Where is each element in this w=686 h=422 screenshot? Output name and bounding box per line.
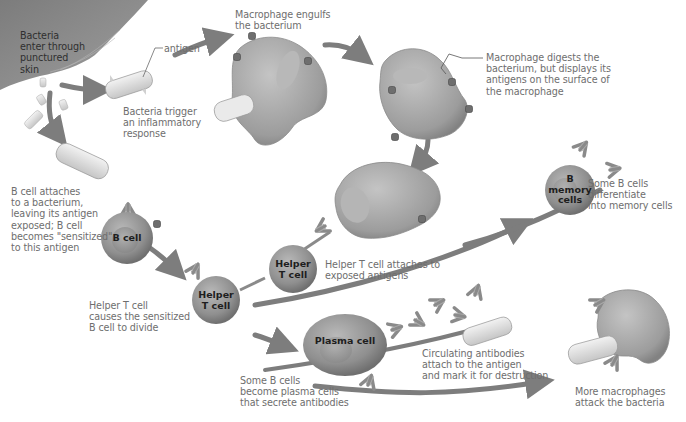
cell-label-b-memory: B memory cells	[545, 174, 595, 206]
macrophage-presenting	[335, 162, 440, 238]
macrophage-digesting	[380, 49, 473, 141]
label-bacteria-trigger: Bacteria trigger an inflammatory respons…	[123, 106, 201, 140]
label-circulating-antibodies: Circulating antibodies attach to the ant…	[422, 348, 548, 382]
label-helper-attaches: Helper T cell attaches to exposed antige…	[325, 259, 440, 281]
cell-label-b-cell: B cell	[105, 233, 149, 244]
label-plasma-secrete: Some B cells become plasma cells that se…	[240, 375, 349, 409]
label-memory-differentiate: Some B cells differentiate into memory c…	[588, 178, 672, 212]
macrophage-attacking	[566, 290, 669, 370]
bacterium-b-cell	[53, 140, 111, 181]
macrophage-engulfing	[212, 33, 327, 146]
bacterium-inflammatory	[101, 63, 156, 106]
helper-t-cell-upper	[269, 219, 330, 293]
bacterium-marked	[461, 315, 514, 348]
label-bacteria-enter: Bacteria enter through punctured skin	[20, 30, 85, 75]
label-more-macrophages: More macrophages attack the bacteria	[575, 386, 665, 408]
cell-label-helper-lower: Helper T cell	[193, 290, 239, 311]
label-macrophage-engulfs: Macrophage engulfs the bacterium	[235, 9, 331, 31]
cell-label-plasma: Plasma cell	[305, 336, 385, 347]
cell-label-helper-upper: Helper T cell	[270, 259, 316, 280]
label-antigen: antigen	[164, 43, 200, 54]
label-helper-causes: Helper T cell causes the sensitized B ce…	[89, 300, 190, 334]
label-macrophage-digests: Macrophage digests the bacterium, but di…	[486, 52, 611, 97]
label-b-cell-attaches: B cell attaches to a bacterium, leaving …	[11, 186, 112, 253]
